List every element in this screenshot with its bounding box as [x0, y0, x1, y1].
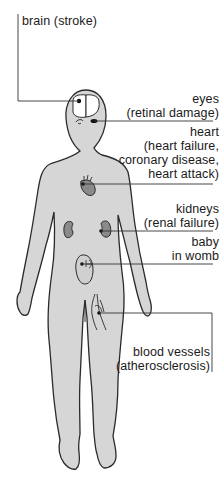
label-heart-line: heart — [119, 125, 219, 139]
label-baby-line: baby — [172, 235, 219, 249]
label-blood-vessels-line: (atherosclerosis) — [116, 359, 210, 373]
baby-in-womb-icon — [76, 255, 93, 284]
label-brain-line: brain (stroke) — [22, 14, 97, 28]
label-eyes-line: eyes — [126, 92, 219, 106]
label-eyes: eyes (retinal damage) — [126, 92, 219, 120]
label-kidneys: kidneys (renal failure) — [144, 202, 219, 230]
label-baby: baby in womb — [172, 235, 219, 263]
label-heart-line: heart attack) — [119, 167, 219, 181]
label-kidneys-line: kidneys — [144, 202, 219, 216]
label-blood-vessels: blood vessels (atherosclerosis) — [116, 345, 210, 373]
label-brain: brain (stroke) — [22, 14, 97, 28]
label-baby-line: in womb — [172, 249, 219, 263]
label-blood-vessels-line: blood vessels — [116, 345, 210, 359]
label-eyes-line: (retinal damage) — [126, 106, 219, 120]
label-heart-line: coronary disease, — [119, 153, 219, 167]
label-heart: heart (heart failure, coronary disease, … — [119, 125, 219, 181]
label-kidneys-line: (renal failure) — [144, 216, 219, 230]
hypertension-organ-damage-diagram: brain (stroke) eyes (retinal damage) hea… — [0, 0, 224, 489]
brain-icon — [73, 95, 99, 118]
label-heart-line: (heart failure, — [119, 139, 219, 153]
